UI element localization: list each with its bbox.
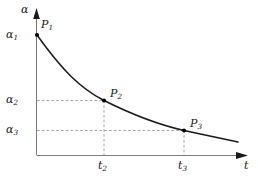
y-tick-label-alpha1: α1 bbox=[6, 29, 18, 41]
y-tick-label-alpha3: α3 bbox=[6, 124, 18, 136]
y-tick-sub-alpha1: 1 bbox=[13, 33, 18, 42]
point-sub-p2: 2 bbox=[117, 92, 122, 101]
point-marker-p2 bbox=[102, 98, 106, 102]
point-marker-p3 bbox=[182, 128, 186, 132]
y-tick-label-alpha2: α2 bbox=[6, 94, 18, 106]
x-axis-label: t bbox=[244, 160, 248, 171]
x-axis-arrowhead bbox=[236, 152, 248, 159]
plot-area bbox=[0, 0, 258, 179]
y-tick-sub-alpha2: 2 bbox=[13, 98, 18, 107]
decay-curve-figure: α t α1 α2 α3 t2 t3 P1 P2 P3 bbox=[0, 0, 258, 179]
x-tick-label-t2: t2 bbox=[98, 160, 107, 172]
x-tick-label-t3: t3 bbox=[178, 160, 187, 172]
point-label-p3: P3 bbox=[190, 118, 202, 130]
y-axis-arrowhead bbox=[33, 8, 40, 19]
y-axis-label: α bbox=[21, 4, 28, 15]
point-sub-p3: 3 bbox=[197, 122, 202, 131]
x-tick-sub-t2: 2 bbox=[102, 164, 107, 173]
y-tick-sub-alpha3: 3 bbox=[13, 128, 18, 137]
decay-curve bbox=[37, 35, 238, 142]
point-marker-p1 bbox=[35, 33, 39, 37]
point-label-p2: P2 bbox=[110, 88, 122, 100]
point-sub-p1: 1 bbox=[48, 23, 53, 32]
x-tick-sub-t3: 3 bbox=[182, 164, 187, 173]
point-label-p1: P1 bbox=[41, 19, 53, 31]
